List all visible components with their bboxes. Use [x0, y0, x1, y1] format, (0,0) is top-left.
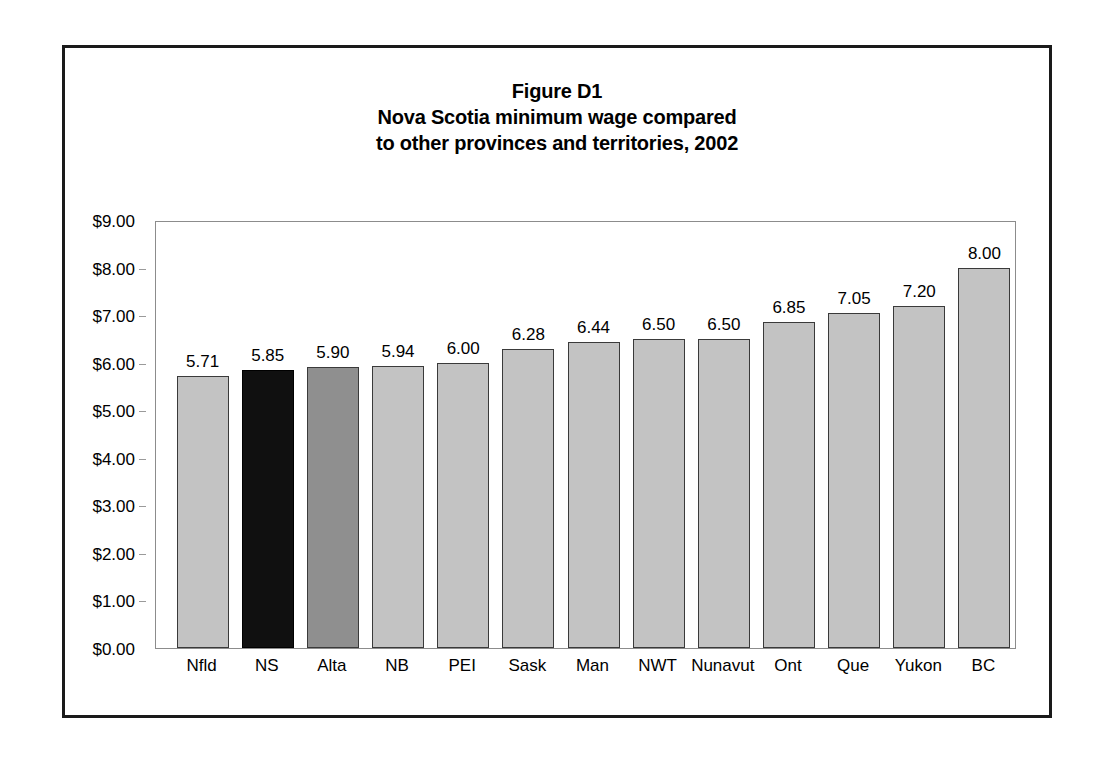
y-axis-tick-mark: [139, 269, 146, 270]
bar-sask[interactable]: [502, 349, 554, 648]
bar-yukon[interactable]: [893, 306, 945, 648]
y-axis-tick-label: $4.00: [55, 450, 135, 467]
bar-value-label: 5.90: [316, 344, 349, 361]
y-axis-tick-label: $9.00: [55, 213, 135, 230]
bar-group: 6.50: [633, 220, 685, 648]
y-axis-tick-mark: [139, 316, 146, 317]
bar-nunavut[interactable]: [698, 339, 750, 648]
bar-man[interactable]: [568, 342, 620, 648]
bar-group: 6.44: [568, 220, 620, 648]
y-axis-tick-mark: [139, 364, 146, 365]
y-axis-tick-mark: [139, 601, 146, 602]
bar-nfld[interactable]: [177, 376, 229, 648]
chart-title: Figure D1 Nova Scotia minimum wage compa…: [65, 78, 1049, 156]
bar-group: 6.00: [437, 220, 489, 648]
bar-value-label: 5.85: [251, 347, 284, 364]
bar-bc[interactable]: [958, 268, 1010, 648]
y-axis-tick-mark: [139, 554, 146, 555]
bar-group: 6.85: [763, 220, 815, 648]
bar-value-label: 6.85: [772, 299, 805, 316]
bar-value-label: 7.20: [903, 283, 936, 300]
y-axis: $0.00$1.00$2.00$3.00$4.00$5.00$6.00$7.00…: [65, 221, 149, 649]
bar-que[interactable]: [828, 313, 880, 648]
bar-alta[interactable]: [307, 367, 359, 648]
bar-value-label: 6.50: [642, 316, 675, 333]
y-axis-tick-label: $3.00: [55, 498, 135, 515]
x-axis: NfldNSAltaNBPEISaskManNWTNunavutOntQueYu…: [155, 656, 1016, 686]
bar-value-label: 6.28: [512, 326, 545, 343]
y-axis-tick-label: $8.00: [55, 260, 135, 277]
y-axis-tick-mark: [139, 506, 146, 507]
bar-group: 5.90: [307, 220, 359, 648]
chart-title-line-1: Figure D1: [65, 78, 1049, 104]
bar-group: 7.20: [893, 220, 945, 648]
bar-group: 8.00: [958, 220, 1010, 648]
bar-group: 5.71: [177, 220, 229, 648]
y-axis-tick-mark: [139, 459, 146, 460]
chart-title-line-2: Nova Scotia minimum wage compared: [65, 104, 1049, 130]
bar-value-label: 8.00: [968, 245, 1001, 262]
bar-value-label: 5.94: [381, 343, 414, 360]
bar-nwt[interactable]: [633, 339, 685, 648]
y-axis-tick-label: $2.00: [55, 545, 135, 562]
bar-value-label: 5.71: [186, 353, 219, 370]
bar-nb[interactable]: [372, 366, 424, 648]
bar-group: 5.85: [242, 220, 294, 648]
y-axis-tick-label: $0.00: [55, 641, 135, 658]
bar-group: 6.28: [502, 220, 554, 648]
y-axis-tick-mark: [139, 411, 146, 412]
y-axis-tick-label: $5.00: [55, 403, 135, 420]
bar-pei[interactable]: [437, 363, 489, 648]
bar-group: 7.05: [828, 220, 880, 648]
bar-ns[interactable]: [242, 370, 294, 648]
bar-group: 5.94: [372, 220, 424, 648]
y-axis-tick-label: $7.00: [55, 308, 135, 325]
x-axis-label-bc: BC: [938, 656, 1028, 676]
bar-value-label: 6.00: [447, 340, 480, 357]
plot-area: 5.715.855.905.946.006.286.446.506.506.85…: [155, 221, 1016, 649]
bar-value-label: 6.50: [707, 316, 740, 333]
bar-group: 6.50: [698, 220, 750, 648]
y-axis-tick-label: $6.00: [55, 355, 135, 372]
figure-frame: Figure D1 Nova Scotia minimum wage compa…: [62, 45, 1052, 718]
chart-title-line-3: to other provinces and territories, 2002: [65, 130, 1049, 156]
y-axis-tick-label: $1.00: [55, 593, 135, 610]
bar-ont[interactable]: [763, 322, 815, 648]
bar-value-label: 7.05: [838, 290, 871, 307]
bar-value-label: 6.44: [577, 319, 610, 336]
